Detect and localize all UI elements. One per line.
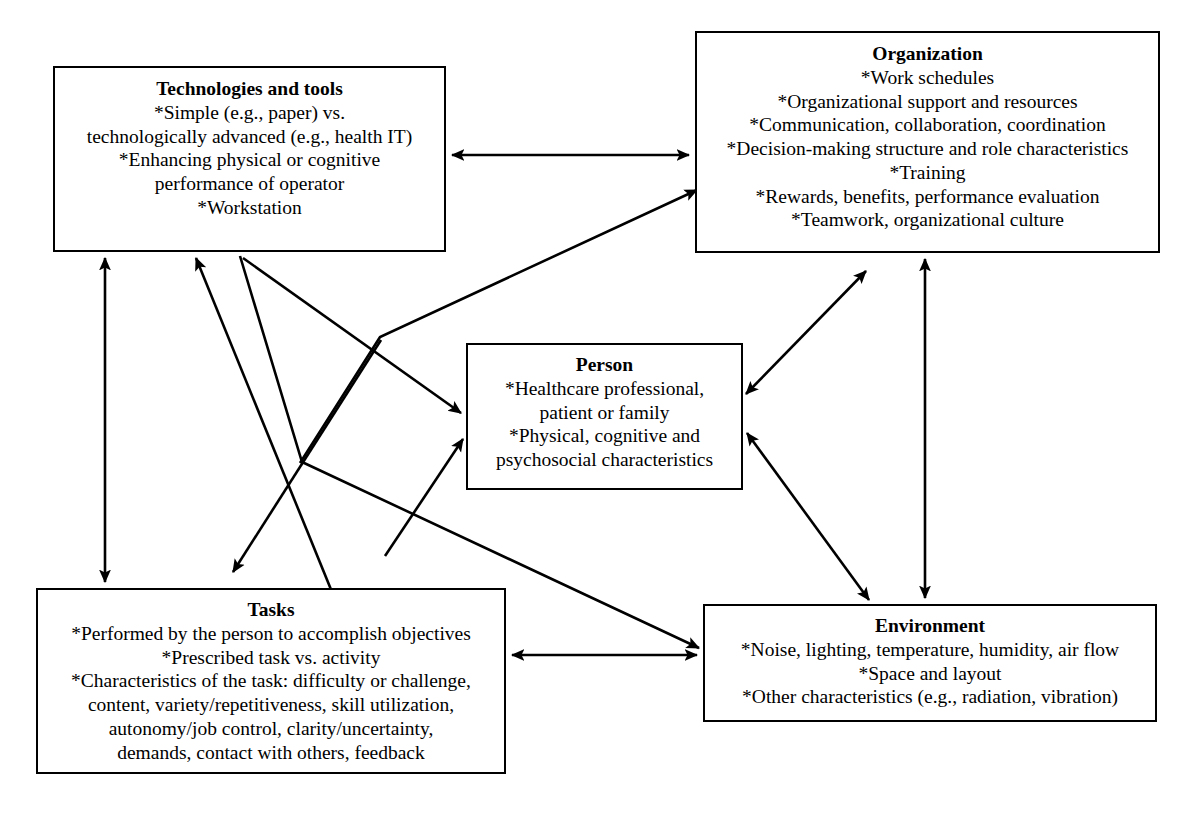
node-title: Organization (697, 42, 1158, 66)
node-body-line: *Training (697, 161, 1158, 185)
node-body: *Healthcare professional,patient or fami… (468, 377, 741, 472)
connector-technologies-person (243, 258, 461, 413)
node-body-line: psychosocial characteristics (468, 448, 741, 472)
node-body-line: *Workstation (55, 196, 444, 220)
node-body: *Work schedules*Organizational support a… (697, 66, 1158, 232)
node-body: *Simple (e.g., paper) vs.technologically… (55, 101, 444, 220)
node-title: Tasks (38, 598, 504, 622)
node-body-line: *Other characteristics (e.g., radiation,… (705, 685, 1155, 709)
node-body-line: *Enhancing physical or cognitive (55, 148, 444, 172)
node-technologies-and-tools[interactable]: Technologies and tools *Simple (e.g., pa… (53, 66, 446, 252)
node-body-line: *Communication, collaboration, coordinat… (697, 113, 1158, 137)
node-title: Person (468, 353, 741, 377)
node-body-line: *Noise, lighting, temperature, humidity,… (705, 638, 1155, 662)
node-body-line: *Rewards, benefits, performance evaluati… (697, 185, 1158, 209)
node-body-line: *Physical, cognitive and (468, 424, 741, 448)
node-person[interactable]: Person *Healthcare professional,patient … (466, 343, 743, 490)
connector-organization-tasks (233, 340, 381, 572)
work-system-diagram: Technologies and tools *Simple (e.g., pa… (0, 0, 1189, 822)
node-body: *Noise, lighting, temperature, humidity,… (705, 638, 1155, 709)
connector-person-environment (747, 433, 869, 600)
node-body-line: demands, contact with others, feedback (38, 741, 504, 765)
connector-person-organization (746, 271, 866, 394)
node-body-line: *Performed by the person to accomplish o… (38, 622, 504, 646)
node-body-line: technologically advanced (e.g., health I… (55, 125, 444, 149)
node-organization[interactable]: Organization *Work schedules*Organizatio… (695, 31, 1160, 253)
node-body-line: *Characteristics of the task: difficulty… (38, 669, 504, 693)
node-body-line: patient or family (468, 401, 741, 425)
node-body-line: *Simple (e.g., paper) vs. (55, 101, 444, 125)
node-body-line: *Prescribed task vs. activity (38, 646, 504, 670)
node-body-line: *Healthcare professional, (468, 377, 741, 401)
node-title: Technologies and tools (55, 77, 444, 101)
node-body: *Performed by the person to accomplish o… (38, 622, 504, 765)
node-body-line: performance of operator (55, 172, 444, 196)
connector-tasks-person (385, 439, 463, 556)
node-title: Environment (705, 614, 1155, 638)
node-body-line: autonomy/job control, clarity/uncertaint… (38, 717, 504, 741)
node-body-line: *Organizational support and resources (697, 90, 1158, 114)
node-body-line: content, variety/repetitiveness, skill u… (38, 693, 504, 717)
node-body-line: *Teamwork, organizational culture (697, 208, 1158, 232)
node-body-line: *Decision-making structure and role char… (697, 137, 1158, 161)
node-body-line: *Work schedules (697, 66, 1158, 90)
node-tasks[interactable]: Tasks *Performed by the person to accomp… (36, 588, 506, 774)
connector-tasks-technologies (196, 258, 332, 592)
node-body-line: *Space and layout (705, 662, 1155, 686)
node-environment[interactable]: Environment *Noise, lighting, temperatur… (703, 604, 1157, 722)
